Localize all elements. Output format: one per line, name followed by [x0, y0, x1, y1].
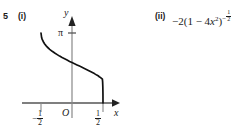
x-axis-label: x: [114, 108, 118, 118]
x-tick-label-pos-half: 12: [95, 110, 101, 127]
exponent-denominator: 2: [226, 17, 231, 23]
derivative-expression: −2(1 − 4x2)−12: [172, 10, 231, 27]
y-tick-label-pi: π: [58, 28, 63, 38]
y-axis-label: y: [64, 8, 68, 18]
expression-minus-sign: −: [196, 15, 202, 27]
neg-half-fraction: 12: [37, 110, 43, 127]
origin-label: O: [62, 108, 69, 118]
figure-page: 5 (i) (ii) y x π O: [0, 0, 236, 135]
pos-half-fraction: 12: [95, 110, 101, 127]
pos-half-denominator: 2: [95, 119, 101, 127]
part-ii-label: (ii): [155, 12, 165, 21]
y-axis-arrowhead: [68, 16, 75, 26]
x-tick-label-neg-half: −12: [32, 110, 43, 127]
expression-one: 1: [187, 15, 193, 27]
graph-figure: y x π O −12 12: [0, 0, 130, 135]
x-axis-arrowhead: [112, 99, 120, 107]
exponent-fraction: 12: [226, 10, 231, 22]
neg-half-denominator: 2: [37, 119, 43, 127]
expression-coefficient: −2: [172, 15, 184, 27]
